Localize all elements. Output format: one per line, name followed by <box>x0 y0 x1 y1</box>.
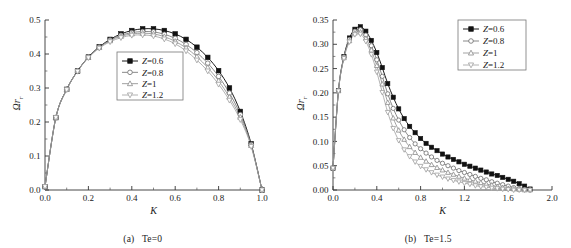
x-tick-label: 0.2 <box>83 193 94 203</box>
y-tick-label: 0.1 <box>29 151 40 161</box>
caption-a-label: (a) <box>123 234 134 244</box>
legend-label: Z=1.2 <box>483 60 504 70</box>
x-tick-label: 1.2 <box>458 193 469 203</box>
caption-b-text: Te=1.5 <box>424 234 452 244</box>
series-markers <box>43 27 265 193</box>
y-axis-title: Ωrr <box>295 96 308 110</box>
svg-text:r: r <box>300 96 307 99</box>
legend-label: Z=0.6 <box>142 56 164 66</box>
legend-label: Z=1 <box>142 79 157 89</box>
x-tick-label: 1.0 <box>256 193 268 203</box>
x-tick-label: 0.0 <box>39 193 51 203</box>
x-tick-label: 0.8 <box>414 193 426 203</box>
svg-text:Ωr: Ωr <box>295 99 306 110</box>
legend-label: Z=0.8 <box>142 68 164 78</box>
x-axis-title: K <box>438 205 447 216</box>
y-tick-label: 0.25 <box>312 64 328 74</box>
y-tick-label: 0.35 <box>312 15 328 25</box>
y-tick-label: 0.10 <box>312 137 328 147</box>
svg-text:r: r <box>17 96 24 99</box>
caption-a: (a) Te=0 <box>0 234 286 244</box>
panel-b: 0.000.050.100.150.200.250.300.350.00.40.… <box>286 0 571 248</box>
x-axis-title: K <box>149 205 158 216</box>
caption-b: (b) Te=1.5 <box>286 234 571 244</box>
plot-a: 0.00.10.20.30.40.50.00.20.40.60.81.0KΩrr… <box>0 0 286 248</box>
y-tick-label: 0.30 <box>312 39 328 49</box>
x-tick-label: 0.4 <box>371 193 383 203</box>
y-tick-label: 0.05 <box>312 161 328 171</box>
panel-a: 0.00.10.20.30.40.50.00.20.40.60.81.0KΩrr… <box>0 0 286 248</box>
legend-label: Z=1.2 <box>142 90 163 100</box>
x-tick-label: 0.4 <box>126 193 138 203</box>
x-tick-label: 0.8 <box>213 193 225 203</box>
caption-b-label: (b) <box>405 234 417 244</box>
y-tick-label: 0.2 <box>29 117 40 127</box>
x-tick-label: 2.0 <box>546 193 558 203</box>
legend-label: Z=0.8 <box>483 36 505 46</box>
y-tick-label: 0.20 <box>312 88 328 98</box>
figure-container: 0.00.10.20.30.40.50.00.20.40.60.81.0KΩrr… <box>0 0 571 248</box>
y-tick-label: 0.4 <box>29 49 41 59</box>
caption-a-text: Te=0 <box>142 234 162 244</box>
legend-label: Z=0.6 <box>483 24 505 34</box>
y-tick-label: 0.3 <box>29 83 41 93</box>
y-axis-title: Ωrr <box>11 96 24 110</box>
svg-text:Ωr: Ωr <box>11 99 22 110</box>
y-tick-label: 0.15 <box>312 112 328 122</box>
x-tick-label: 0.0 <box>327 193 339 203</box>
plot-b: 0.000.050.100.150.200.250.300.350.00.40.… <box>286 0 571 248</box>
x-tick-label: 1.6 <box>502 193 514 203</box>
y-tick-label: 0.5 <box>29 15 41 25</box>
legend-label: Z=1 <box>483 48 498 58</box>
x-tick-label: 0.6 <box>170 193 182 203</box>
